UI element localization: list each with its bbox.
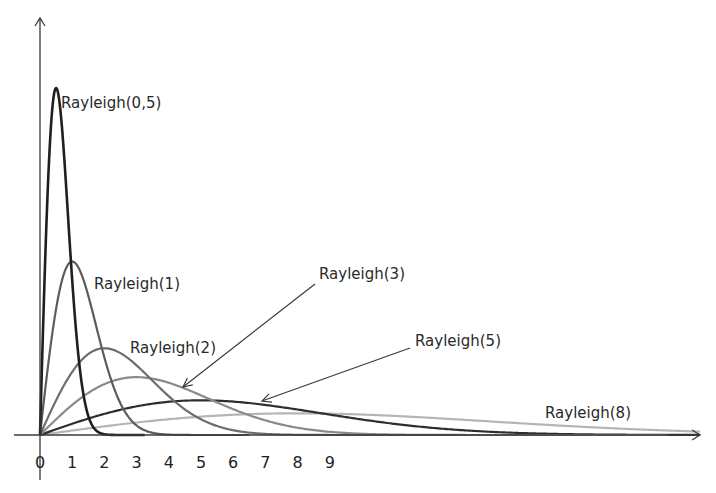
- x-tick-label: 2: [99, 453, 109, 472]
- label-arrows: [183, 284, 410, 402]
- x-tick-label: 9: [325, 453, 335, 472]
- series-label: Rayleigh(0,5): [61, 94, 161, 112]
- series-label: Rayleigh(5): [415, 332, 501, 350]
- curves-group: [40, 88, 700, 435]
- x-tick-labels: 0123456789: [35, 453, 335, 472]
- x-tick-label: 3: [132, 453, 142, 472]
- x-tick-label: 6: [228, 453, 238, 472]
- series-label: Rayleigh(8): [545, 404, 631, 422]
- series-label: Rayleigh(3): [319, 265, 405, 283]
- label-arrow-line: [183, 284, 315, 387]
- x-tick-label: 1: [67, 453, 77, 472]
- rayleigh-distribution-chart: 0123456789 Rayleigh(0,5)Rayleigh(1)Rayle…: [0, 0, 716, 493]
- x-tick-label: 4: [164, 453, 174, 472]
- label-arrow-line: [262, 348, 410, 401]
- series-labels: Rayleigh(0,5)Rayleigh(1)Rayleigh(2)Rayle…: [61, 94, 631, 422]
- x-tick-label: 8: [293, 453, 303, 472]
- curve-rayleigh-0-5: [40, 88, 145, 435]
- curve-rayleigh-2: [40, 348, 459, 435]
- series-label: Rayleigh(1): [94, 275, 180, 293]
- x-tick-label: 7: [260, 453, 270, 472]
- x-tick-label: 5: [196, 453, 206, 472]
- x-tick-label: 0: [35, 453, 45, 472]
- series-label: Rayleigh(2): [130, 339, 216, 357]
